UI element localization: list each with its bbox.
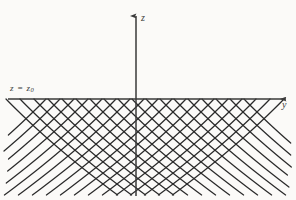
z-axis-label: z xyxy=(141,12,145,23)
characteristic-curve xyxy=(6,99,102,183)
initial-line-label: z = z0 xyxy=(10,83,34,93)
characteristic-curve xyxy=(8,99,88,171)
characteristic-curve xyxy=(188,99,289,187)
characteristic-family-b xyxy=(4,99,284,195)
characteristic-curve xyxy=(8,99,46,135)
initial-line-label-text: z = z xyxy=(10,83,31,93)
characteristic-net-figure: z y z = z0 xyxy=(0,0,296,200)
y-axis-label: y xyxy=(282,99,287,110)
initial-line-label-subscript: 0 xyxy=(31,86,35,93)
diagram-canvas xyxy=(0,0,296,200)
axes-group xyxy=(8,16,286,196)
